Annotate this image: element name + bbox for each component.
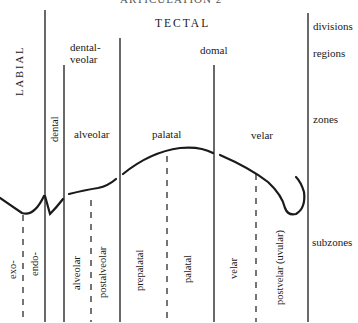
subzone-alveolar: alveolar <box>71 256 82 290</box>
division-labial: LABIAL <box>14 46 25 97</box>
subzone-palatal: palatal <box>182 255 193 283</box>
diagram-lines <box>0 0 358 323</box>
zone-alveolar: alveolar <box>74 128 109 140</box>
contour-palatal <box>123 148 213 174</box>
contour-velar <box>220 155 304 214</box>
zone-velar: velar <box>251 129 273 141</box>
division-tectal: TECTAL <box>155 17 210 29</box>
region-dental-veolar-line2: veolar <box>70 53 97 65</box>
contour-alveolar <box>69 179 116 194</box>
subzone-exo: exo- <box>7 260 18 279</box>
row-label-zones: zones <box>313 113 338 125</box>
articulation-diagram: ARTICULATION 2 LABIAL TECTAL dental- veo… <box>0 0 358 323</box>
page-header-truncated: ARTICULATION 2 <box>120 0 222 5</box>
zone-palatal: palatal <box>152 128 181 140</box>
subzone-prepalatal: prepalatal <box>134 250 145 291</box>
row-label-regions: regions <box>313 47 345 59</box>
subzone-postalveolar: postalveolar <box>97 247 108 298</box>
zone-dental: dental <box>49 116 60 142</box>
row-label-divisions: divisions <box>313 20 353 32</box>
subzone-postvelar-uvular: postvelar (uvular) <box>274 230 285 305</box>
contour-dental <box>45 196 63 214</box>
contour-labial <box>0 196 44 214</box>
subzone-endo: endo- <box>29 252 40 276</box>
row-label-subzones: subzones <box>312 236 352 248</box>
region-dental-veolar-line1: dental- <box>70 41 101 53</box>
subzone-velar: velar <box>228 258 239 279</box>
region-domal: domal <box>200 44 228 56</box>
